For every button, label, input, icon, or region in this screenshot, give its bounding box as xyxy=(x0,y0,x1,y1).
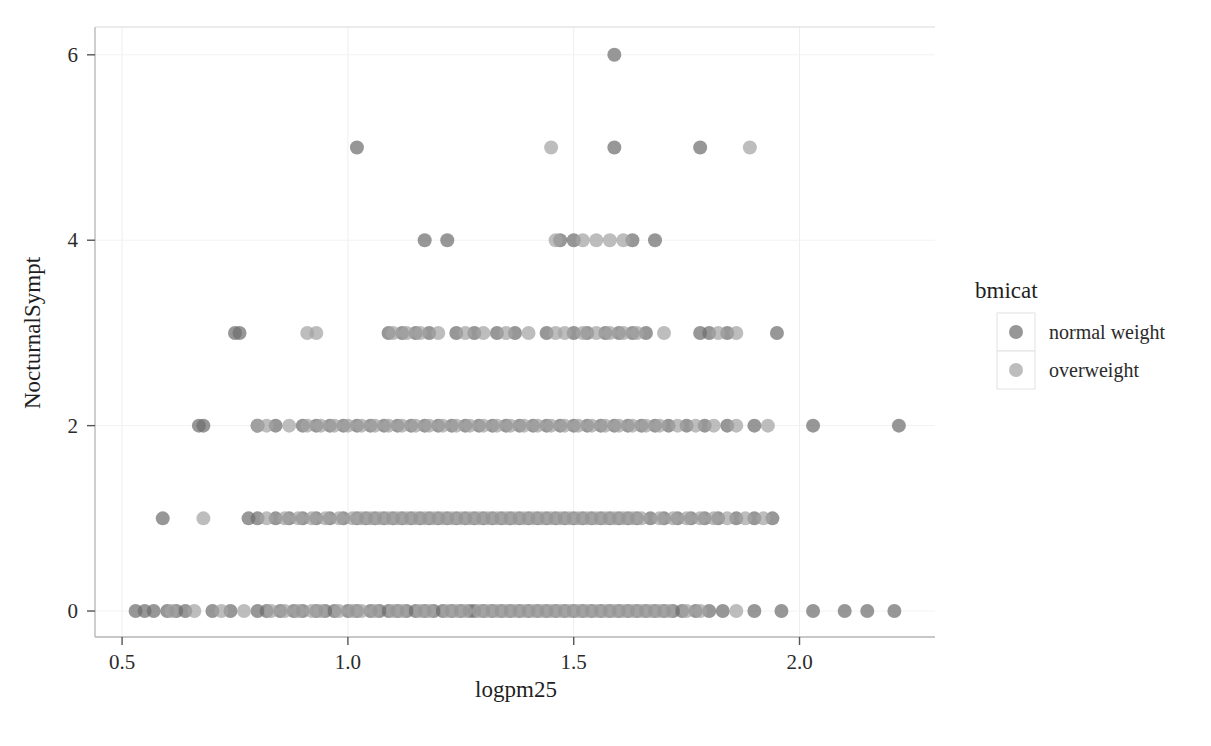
data-point xyxy=(729,604,743,618)
data-point xyxy=(738,511,752,525)
data-point xyxy=(671,419,685,433)
data-point xyxy=(774,604,788,618)
data-point xyxy=(233,326,247,340)
legend-swatch-dot xyxy=(1009,325,1023,339)
data-point xyxy=(630,326,644,340)
data-point xyxy=(400,326,414,340)
data-point xyxy=(503,419,517,433)
data-point xyxy=(607,141,621,155)
data-point xyxy=(639,419,653,433)
data-point xyxy=(603,233,617,247)
x-tick-label: 1.0 xyxy=(335,650,361,674)
data-point xyxy=(237,604,251,618)
data-point xyxy=(716,604,730,618)
data-point xyxy=(278,604,292,618)
data-point xyxy=(729,326,743,340)
data-point xyxy=(576,326,590,340)
y-tick-label: 6 xyxy=(68,43,79,67)
data-point xyxy=(409,419,423,433)
data-point xyxy=(332,604,346,618)
data-point xyxy=(463,419,477,433)
data-point xyxy=(395,419,409,433)
data-point xyxy=(589,233,603,247)
data-point xyxy=(589,326,603,340)
data-point xyxy=(431,326,445,340)
data-point xyxy=(440,233,454,247)
data-point xyxy=(291,604,305,618)
data-point xyxy=(196,511,210,525)
data-point xyxy=(260,511,274,525)
data-point xyxy=(327,419,341,433)
data-point xyxy=(747,604,761,618)
data-point xyxy=(341,419,355,433)
data-point xyxy=(314,604,328,618)
data-point xyxy=(368,419,382,433)
data-point xyxy=(887,604,901,618)
data-point xyxy=(680,604,694,618)
data-point xyxy=(476,326,490,340)
data-point xyxy=(458,604,472,618)
data-point xyxy=(711,326,725,340)
data-point xyxy=(332,511,346,525)
data-point xyxy=(264,604,278,618)
data-point xyxy=(653,419,667,433)
data-point xyxy=(634,511,648,525)
data-point xyxy=(314,419,328,433)
scatter-plot-figure: 0.51.01.52.00246 logpm25 NocturnalSympt … xyxy=(0,0,1211,746)
data-point xyxy=(662,604,676,618)
data-point xyxy=(300,419,314,433)
x-tick-label: 0.5 xyxy=(109,650,135,674)
data-point xyxy=(382,419,396,433)
data-point xyxy=(689,419,703,433)
data-point xyxy=(761,419,775,433)
x-tick-label: 1.5 xyxy=(561,650,587,674)
data-point xyxy=(354,604,368,618)
data-point xyxy=(648,233,662,247)
data-point xyxy=(544,419,558,433)
data-point xyxy=(860,604,874,618)
data-point xyxy=(693,511,707,525)
legend-item-label: overweight xyxy=(1049,359,1139,382)
data-point xyxy=(436,419,450,433)
data-point xyxy=(838,604,852,618)
data-point xyxy=(607,48,621,62)
data-point xyxy=(196,419,210,433)
data-point xyxy=(666,511,680,525)
data-point xyxy=(282,419,296,433)
legend-title: bmicat xyxy=(975,278,1038,303)
data-point xyxy=(756,511,770,525)
data-point xyxy=(616,233,630,247)
data-point xyxy=(305,511,319,525)
data-point xyxy=(517,419,531,433)
data-point xyxy=(413,326,427,340)
data-point xyxy=(309,326,323,340)
data-point xyxy=(770,326,784,340)
data-point xyxy=(386,326,400,340)
x-axis-title: logpm25 xyxy=(475,677,557,702)
data-point xyxy=(418,233,432,247)
data-point xyxy=(806,604,820,618)
data-point xyxy=(571,419,585,433)
data-point xyxy=(616,326,630,340)
data-point xyxy=(395,604,409,618)
data-point xyxy=(458,326,472,340)
data-point xyxy=(693,141,707,155)
data-point xyxy=(156,511,170,525)
data-point xyxy=(291,511,305,525)
data-point xyxy=(747,419,761,433)
data-point xyxy=(522,326,536,340)
data-point xyxy=(558,419,572,433)
data-point xyxy=(531,419,545,433)
y-tick-label: 2 xyxy=(68,414,79,438)
y-tick-label: 4 xyxy=(68,228,79,252)
data-point xyxy=(598,419,612,433)
data-point xyxy=(422,419,436,433)
y-tick-label: 0 xyxy=(68,599,79,623)
data-point xyxy=(729,419,743,433)
data-point xyxy=(214,604,228,618)
data-point xyxy=(544,141,558,155)
data-point xyxy=(318,511,332,525)
data-point xyxy=(653,511,667,525)
data-point xyxy=(368,604,382,618)
data-point xyxy=(147,604,161,618)
